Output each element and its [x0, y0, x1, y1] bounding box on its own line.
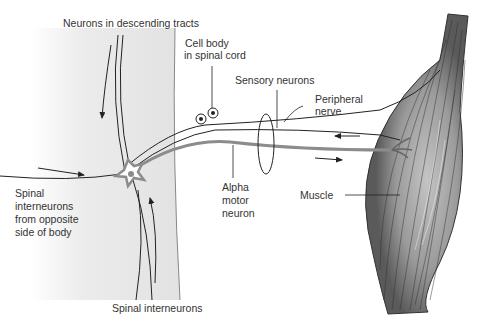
label-cell-body-2: in spinal cord [184, 49, 246, 61]
label-sensory-neurons: Sensory neurons [235, 74, 314, 86]
label-cell-body-1: Cell body [185, 37, 229, 49]
label-opposite-4: side of body [15, 226, 72, 238]
label-muscle: Muscle [300, 189, 333, 201]
label-peripheral-2: nerve [315, 105, 341, 117]
label-opposite-3: from opposite [15, 213, 79, 225]
label-opposite-1: Spinal [15, 187, 44, 199]
label-spinal-interneurons: Spinal interneurons [112, 302, 202, 314]
label-descending-tracts: Neurons in descending tracts [63, 17, 199, 29]
spinal-cord [30, 28, 180, 300]
label-alpha-1: Alpha [222, 181, 249, 193]
label-peripheral-1: Peripheral [315, 93, 363, 105]
label-alpha-3: neuron [222, 207, 255, 219]
motor-control-diagram: Neurons in descending tracts Cell body i… [0, 0, 477, 325]
label-alpha-2: motor [222, 194, 249, 206]
label-opposite-2: interneurons [15, 200, 73, 212]
